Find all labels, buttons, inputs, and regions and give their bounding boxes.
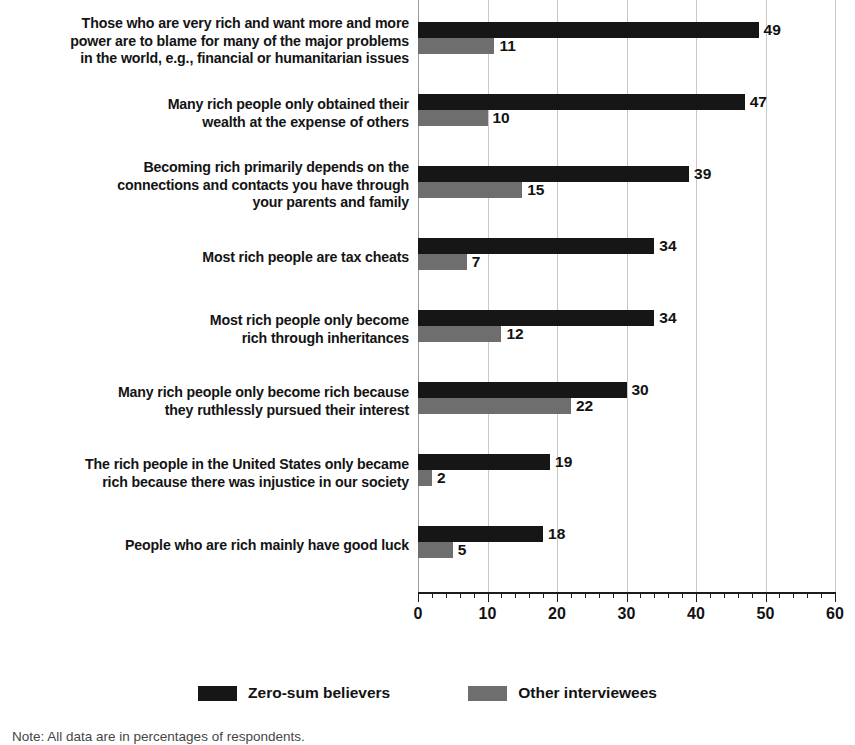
legend-label: Other interviewees: [518, 684, 657, 702]
axis-tick-minor: [446, 592, 447, 598]
axis-tick-minor: [474, 592, 475, 598]
gridline: [835, 0, 836, 592]
category-label: Many rich people only become rich becaus…: [9, 384, 409, 419]
bar-value-label: 22: [576, 397, 593, 415]
legend-swatch: [198, 686, 237, 701]
axis-tick-major: [766, 592, 767, 602]
chart-legend: Zero-sum believersOther interviewees: [0, 676, 855, 710]
axis-tick-minor: [571, 592, 572, 598]
axis-tick-label: 60: [826, 605, 844, 623]
bar-row: Becoming rich primarily depends on the c…: [418, 152, 835, 224]
legend-item: Other interviewees: [468, 684, 657, 702]
bar: [418, 382, 627, 398]
bar-value-label: 11: [499, 37, 515, 55]
bar-row: Many rich people only become rich becaus…: [418, 368, 835, 440]
axis-tick-major: [835, 592, 836, 602]
axis-tick-label: 0: [414, 605, 423, 623]
bar: [418, 166, 689, 182]
axis-tick-major: [557, 592, 558, 602]
axis-tick-minor: [738, 592, 739, 598]
bar: [418, 398, 571, 414]
category-label: Most rich people are tax cheats: [9, 249, 409, 267]
category-label: The rich people in the United States onl…: [9, 456, 409, 491]
axis-tick-label: 30: [618, 605, 636, 623]
axis-tick-minor: [752, 592, 753, 598]
bar: [418, 182, 522, 198]
category-label: People who are rich mainly have good luc…: [9, 537, 409, 555]
axis-tick-minor: [599, 592, 600, 598]
x-axis: 0102030405060: [418, 592, 835, 642]
category-label: Many rich people only obtained their wea…: [9, 96, 409, 131]
axis-tick-minor: [460, 592, 461, 598]
bar: [418, 38, 494, 54]
bar-value-label: 5: [458, 541, 467, 559]
bar: [418, 326, 501, 342]
axis-tick-minor: [793, 592, 794, 598]
bar: [418, 254, 467, 270]
axis-tick-minor: [640, 592, 641, 598]
axis-tick-minor: [515, 592, 516, 598]
axis-tick-minor: [668, 592, 669, 598]
axis-tick-major: [488, 592, 489, 602]
bar-value-label: 18: [548, 525, 565, 543]
axis-tick-label: 10: [479, 605, 497, 623]
bar-value-label: 47: [750, 93, 767, 111]
axis-tick-minor: [501, 592, 502, 598]
bar: [418, 542, 453, 558]
bar: [418, 310, 654, 326]
chart-note: Note: All data are in percentages of res…: [12, 729, 305, 744]
axis-tick-minor: [654, 592, 655, 598]
bar-value-label: 49: [764, 21, 781, 39]
axis-tick-label: 40: [687, 605, 705, 623]
bar-value-label: 30: [632, 381, 649, 399]
axis-tick-minor: [613, 592, 614, 598]
bar-value-label: 7: [472, 253, 481, 271]
axis-tick-minor: [821, 592, 822, 598]
axis-tick-minor: [710, 592, 711, 598]
bar-row: Those who are very rich and want more an…: [418, 8, 835, 80]
bar-value-label: 2: [437, 469, 446, 487]
bar-value-label: 12: [506, 325, 523, 343]
axis-tick-minor: [724, 592, 725, 598]
bar: [418, 454, 550, 470]
axis-tick-minor: [585, 592, 586, 598]
bar: [418, 22, 759, 38]
bar-row: Most rich people are tax cheats347: [418, 224, 835, 296]
bar-value-label: 34: [659, 309, 676, 327]
bar: [418, 110, 488, 126]
axis-tick-major: [696, 592, 697, 602]
bar: [418, 94, 745, 110]
axis-tick-minor: [543, 592, 544, 598]
bar-row: Many rich people only obtained their wea…: [418, 80, 835, 152]
bar-value-label: 19: [555, 453, 572, 471]
bar-value-label: 39: [694, 165, 711, 183]
category-label: Most rich people only become rich throug…: [9, 312, 409, 347]
bar-row: The rich people in the United States onl…: [418, 440, 835, 512]
bar: [418, 526, 543, 542]
legend-swatch: [468, 686, 507, 701]
legend-label: Zero-sum believers: [248, 684, 390, 702]
axis-tick-label: 50: [757, 605, 775, 623]
axis-tick-minor: [529, 592, 530, 598]
axis-tick-minor: [432, 592, 433, 598]
plot-area: Those who are very rich and want more an…: [418, 0, 835, 592]
axis-tick-minor: [779, 592, 780, 598]
axis-tick-label: 20: [548, 605, 566, 623]
bar-chart: Those who are very rich and want more an…: [0, 0, 855, 745]
bar-value-label: 34: [659, 237, 676, 255]
bar-rows: Those who are very rich and want more an…: [418, 0, 835, 592]
bar-row: People who are rich mainly have good luc…: [418, 512, 835, 584]
bar: [418, 238, 654, 254]
bar-value-label: 15: [527, 181, 544, 199]
legend-item: Zero-sum believers: [198, 684, 390, 702]
category-label: Those who are very rich and want more an…: [9, 15, 409, 68]
category-label: Becoming rich primarily depends on the c…: [9, 159, 409, 212]
axis-tick-minor: [807, 592, 808, 598]
axis-tick-major: [418, 592, 419, 602]
bar-value-label: 10: [493, 109, 510, 127]
axis-tick-minor: [682, 592, 683, 598]
bar-row: Most rich people only become rich throug…: [418, 296, 835, 368]
bar: [418, 470, 432, 486]
axis-tick-major: [627, 592, 628, 602]
